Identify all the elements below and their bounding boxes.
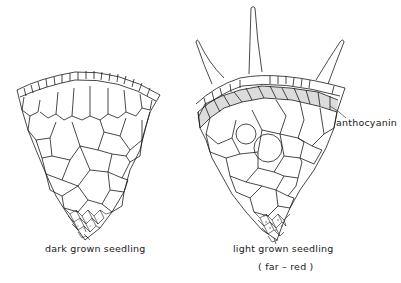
far-red-sublabel: ( far – red ) [258,261,314,272]
anthocyanin-label: anthocyanin [336,117,397,128]
anthocyanin-layer [198,86,338,128]
dark-grown-seedling-label: dark grown seedling [45,243,145,254]
hair-left [196,40,224,84]
light-grown-section-drawing [0,0,401,283]
hair-middle [249,7,262,75]
seedling-cross-section-figure: dark grown seedling light grown seedling… [0,0,401,283]
light-grown-seedling-label: light grown seedling [233,243,333,254]
hair-right [316,40,344,84]
